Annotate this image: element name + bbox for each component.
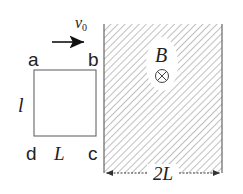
corner-label-a: a <box>28 49 39 70</box>
corner-label-b: b <box>88 49 99 70</box>
velocity-label: v0 <box>75 14 87 33</box>
corner-label-c: c <box>88 143 98 164</box>
conducting-loop <box>34 70 96 136</box>
diagram-canvas: B 2L v0 a b d c l L <box>0 0 243 194</box>
field-label: B <box>155 44 167 66</box>
field-width-label: 2L <box>153 163 173 184</box>
corner-label-d: d <box>26 143 37 164</box>
loop-height-label: l <box>18 94 24 116</box>
loop-width-label: L <box>53 143 65 164</box>
